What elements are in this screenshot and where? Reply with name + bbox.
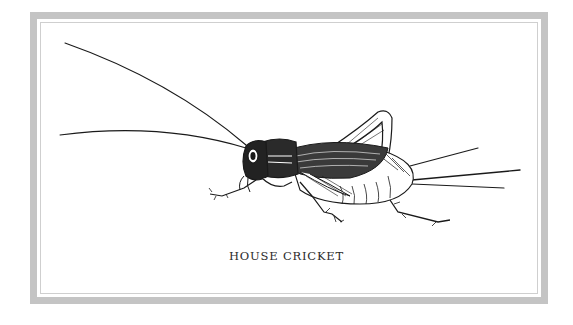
cercus-upper [410,148,478,166]
head [240,141,269,192]
lower-antenna [60,131,246,148]
cricket-illustration [0,0,573,325]
upper-antenna [65,43,246,145]
caption: HOUSE CRICKET [0,249,573,263]
cercus-lower [412,170,520,180]
ovipositor [412,184,504,188]
